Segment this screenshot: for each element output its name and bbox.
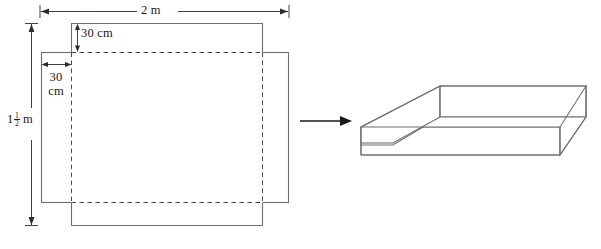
side-cut-label: 30cm [43, 70, 69, 98]
net-vertical-panel [71, 24, 263, 226]
net-horizontal-panel [41, 53, 289, 203]
open-box-drawing [361, 86, 586, 156]
height-fraction: 12 [14, 112, 20, 128]
side-cut-value: 30 [50, 70, 63, 84]
height-arrowhead-top [29, 24, 35, 32]
width-arrowhead-left [41, 9, 49, 15]
height-label: 112m [7, 112, 33, 128]
height-unit: m [23, 113, 33, 127]
top-cut-dimension [75, 24, 80, 53]
width-arrowhead-right [280, 9, 288, 15]
side-cut-arrowhead-left [42, 62, 49, 67]
height-whole-number: 1 [7, 113, 13, 127]
transform-arrowhead [340, 116, 352, 126]
top-cut-arrowhead-down [75, 46, 80, 53]
transform-arrow [300, 116, 352, 126]
height-fraction-denominator: 2 [14, 120, 20, 128]
top-cut-arrowhead-up [75, 24, 80, 31]
side-cut-arrowhead-right [65, 62, 72, 67]
top-cut-label: 30 cm [81, 27, 113, 41]
width-dimension [40, 5, 289, 18]
height-arrowhead-bottom [29, 217, 35, 225]
net-fold-lines [72, 53, 263, 203]
figure-container: 2 m 30 cm 30cm 112m [0, 0, 601, 249]
side-cut-unit: cm [48, 84, 64, 98]
side-cut-dimension [42, 62, 72, 67]
open-box-back-wall [440, 86, 586, 117]
width-label: 2 m [141, 4, 161, 18]
